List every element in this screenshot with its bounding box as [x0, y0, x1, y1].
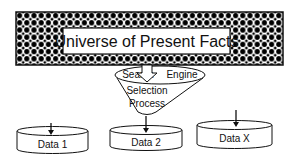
universe-label: Universe of Present Facts [54, 33, 238, 50]
datastore-label: Data 2 [131, 137, 161, 148]
funnel-label-engine: Engine [166, 69, 198, 80]
funnel-label-process: Process [129, 98, 165, 109]
datastore-label: Data 1 [38, 139, 68, 150]
funnel-label-selection: Selection [126, 85, 167, 96]
datastore-label: Data X [219, 133, 250, 144]
selection-funnel: Search Engine Selection Process [110, 64, 210, 115]
universe-box: Universe of Present Facts [16, 12, 283, 65]
diagram-canvas: Universe of Present Facts Search Engine … [0, 0, 297, 167]
datastore-data-x: Data X [197, 121, 272, 149]
